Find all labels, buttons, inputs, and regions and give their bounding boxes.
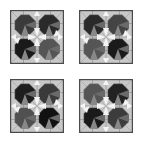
pattern-panel-bottom-left — [10, 79, 64, 133]
pattern-panel-top-left — [10, 10, 64, 64]
pattern-panel-top-right — [79, 10, 133, 64]
pattern-panel-bottom-right — [79, 79, 133, 133]
